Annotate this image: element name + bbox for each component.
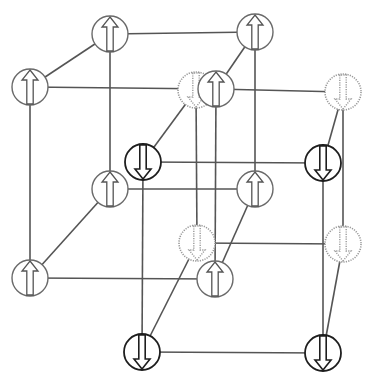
bond-line [142,352,323,353]
spin-site-up [92,171,128,207]
spin-site-up [92,16,128,52]
spin-site-up [198,71,234,107]
spin-site-up [12,69,48,105]
spin-site-up [237,14,273,50]
bond-line [196,90,197,243]
spin-site-down [325,74,361,110]
bond-line [110,32,255,34]
spin-site-up [12,260,48,296]
bond-line [216,89,343,92]
spin-site-down [325,226,361,262]
spin-site-up [237,171,273,207]
bond-line [143,162,323,163]
spin-site-down [124,334,160,370]
spin-lattice-diagram [0,0,378,377]
bond-line [30,278,215,279]
spin-site-down [125,144,161,180]
bond-line [197,243,343,244]
spin-site-up [197,261,233,297]
spin-site-down [179,225,215,261]
spin-site-down [305,145,341,181]
spin-nodes [12,14,361,371]
bond-line [142,162,143,352]
spin-site-down [305,335,341,371]
bond-line [215,89,216,279]
